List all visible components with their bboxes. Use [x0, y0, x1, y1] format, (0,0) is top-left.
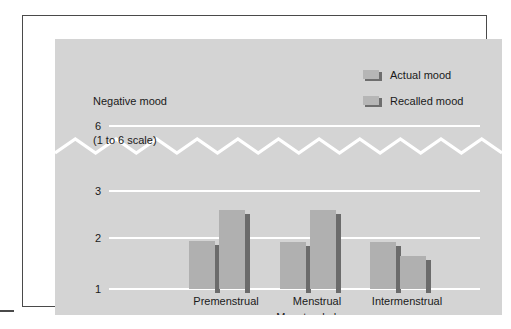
y-axis-caption-line2: (1 to 6 scale): [93, 134, 167, 147]
y-tick-label-3: 3: [95, 185, 101, 197]
chart-canvas: 6 3 2 1 Premenstrual Menstrual Intermens…: [55, 39, 502, 315]
legend-label-actual-mood: Actual mood: [390, 69, 451, 81]
bar-intermenstrual-recalled: [400, 256, 426, 289]
y-tick-label-2: 2: [95, 232, 101, 244]
bar-menstrual-recalled: [310, 210, 336, 289]
figure-root: 6 3 2 1 Premenstrual Menstrual Intermens…: [0, 0, 511, 329]
x-category-label-intermenstrual: Intermenstrual: [372, 295, 442, 307]
x-axis-title: Menstrual phase: [276, 311, 357, 315]
y-axis-caption-line1: Negative mood: [93, 95, 167, 108]
legend-swatch-icon-recalled-mood: [363, 96, 382, 107]
legend-swatch-icon-actual-mood: [363, 70, 382, 81]
bar-premenstrual-recalled: [219, 210, 245, 289]
y-tick-label-1: 1: [95, 283, 101, 295]
gridline-3: [109, 190, 480, 192]
bar-intermenstrual-actual: [370, 242, 396, 289]
gridline-2: [109, 237, 480, 239]
legend-item-recalled-mood: Recalled mood: [363, 91, 463, 111]
edge-tick-mark: [0, 310, 14, 312]
bar-menstrual-actual: [280, 242, 306, 289]
figure-frame: 6 3 2 1 Premenstrual Menstrual Intermens…: [22, 15, 487, 307]
chart-legend: Actual mood Recalled mood: [363, 65, 463, 117]
x-category-label-premenstrual: Premenstrual: [193, 295, 258, 307]
bar-premenstrual-actual: [189, 241, 215, 289]
x-category-label-menstrual: Menstrual: [293, 295, 341, 307]
legend-item-actual-mood: Actual mood: [363, 65, 463, 85]
legend-label-recalled-mood: Recalled mood: [390, 95, 463, 107]
y-axis-caption: Negative mood (1 to 6 scale): [93, 69, 167, 173]
